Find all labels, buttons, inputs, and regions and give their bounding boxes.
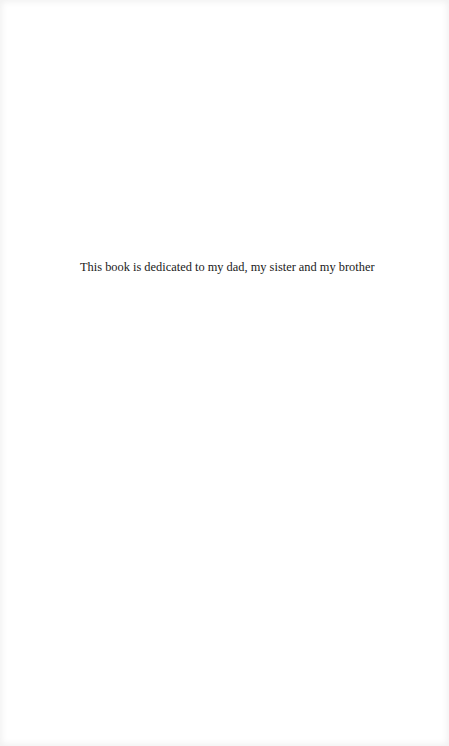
book-page: This book is dedicated to my dad, my sis…	[0, 0, 449, 746]
dedication-text: This book is dedicated to my dad, my sis…	[80, 259, 370, 275]
